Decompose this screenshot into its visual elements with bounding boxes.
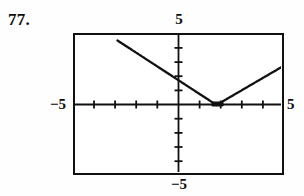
function-trace [118,41,282,106]
axis-label-ymin: −5 [166,177,192,192]
axis-label-xmax: 5 [287,97,301,112]
axis-label-xmin: −5 [40,97,66,112]
trace-left-branch [118,41,217,106]
trace-vertex-marker [212,102,224,107]
problem-number: 77. [8,10,30,30]
graph-svg [75,35,281,172]
axis-label-ymax: 5 [168,12,190,27]
plot-area [75,35,282,173]
page-canvas: 77. [0,0,304,196]
trace-right-branch [217,67,282,106]
graphing-calculator-window [73,33,284,175]
